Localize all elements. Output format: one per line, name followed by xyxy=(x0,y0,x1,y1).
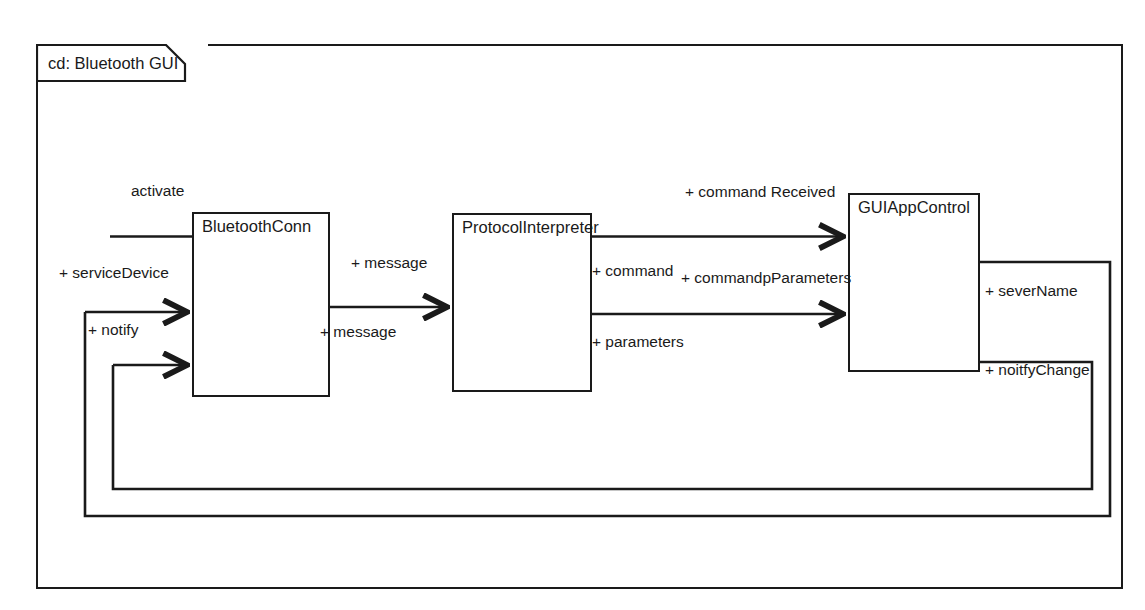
component-bluetooth-conn[interactable]: BluetoothConn xyxy=(192,212,330,397)
frame-name-tab: cd: Bluetooth GUI xyxy=(36,44,208,82)
component-gui-app-control-label: GUIAppControl xyxy=(858,198,970,217)
component-bluetooth-conn-label: BluetoothConn xyxy=(202,217,311,236)
label-message-bottom: + message xyxy=(320,324,396,340)
diagram-canvas: cd: Bluetooth GUI BluetoothConn Protocol… xyxy=(0,0,1145,610)
label-message-top: + message xyxy=(351,255,427,271)
component-gui-app-control[interactable]: GUIAppControl xyxy=(848,193,980,372)
component-protocol-interpreter[interactable]: ProtocolInterpreter xyxy=(452,213,592,392)
frame-title: cd: Bluetooth GUI xyxy=(36,55,208,72)
label-serviceDevice: + serviceDevice xyxy=(59,265,169,281)
label-commandpParameters: + commandpParameters xyxy=(681,270,851,286)
label-parameters: + parameters xyxy=(592,334,684,350)
label-command: + command xyxy=(592,263,673,279)
label-noitfyChange: + noitfyChange xyxy=(985,362,1090,378)
label-severName: + severName xyxy=(985,283,1078,299)
component-protocol-interpreter-label: ProtocolInterpreter xyxy=(462,218,599,237)
label-notify: + notify xyxy=(88,322,138,338)
label-commandReceived: + command Received xyxy=(685,184,835,200)
label-activate: activate xyxy=(131,183,184,199)
